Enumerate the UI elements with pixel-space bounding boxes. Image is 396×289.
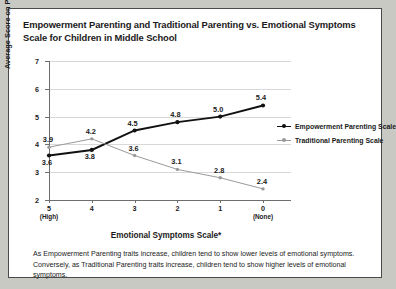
data-point-label: 3.1 <box>165 157 187 166</box>
data-point-label: 3.8 <box>79 152 101 161</box>
series-line <box>49 139 263 189</box>
data-point-label: 3.6 <box>36 158 58 167</box>
y-axis-title: Average Score on Parenting Scales <box>3 0 12 69</box>
data-point-label: 4.2 <box>80 127 102 136</box>
x-tick-label: 5 <box>37 204 61 213</box>
legend-item-empowerment: Empowerment Parenting Scale <box>277 121 389 132</box>
x-tick-label: 2 <box>165 204 189 213</box>
data-point-label: 5.0 <box>207 105 229 114</box>
data-point-marker <box>133 128 137 132</box>
data-point-marker <box>261 187 264 190</box>
x-tick-label: 1 <box>208 204 232 213</box>
data-point-marker <box>261 103 265 107</box>
y-tick-label: 5 <box>25 113 39 122</box>
chart-plot-area: 765432 5(High)43210(None) 3.63.84.54.85.… <box>41 61 291 201</box>
legend-marker-icon <box>277 122 291 131</box>
x-tick-sublabel: (None) <box>246 213 280 220</box>
legend-item-traditional: Traditional Parenting Scale <box>277 135 389 146</box>
legend-marker-icon <box>277 136 291 145</box>
data-point-marker <box>219 176 222 179</box>
data-point-marker <box>90 137 93 140</box>
data-point-marker <box>47 145 50 148</box>
data-point-marker <box>218 115 222 119</box>
y-tick-label: 7 <box>25 57 39 66</box>
data-point-label: 2.8 <box>208 166 230 175</box>
y-tick-label: 6 <box>25 85 39 94</box>
data-point-marker <box>175 120 179 124</box>
x-tick-sublabel: (High) <box>32 213 66 220</box>
data-point-label: 5.4 <box>250 93 272 102</box>
x-axis-title: Emotional Symptoms Scale* <box>41 231 291 240</box>
data-point-label: 4.5 <box>122 119 144 128</box>
chart-legend: Empowerment Parenting Scale Traditional … <box>277 121 389 149</box>
figure-panel: Empowerment Parenting and Traditional Pa… <box>8 8 382 278</box>
x-tick-label: 3 <box>123 204 147 213</box>
data-point-label: 2.4 <box>251 177 273 186</box>
x-tick-label: 0 <box>251 204 275 213</box>
y-tick-label: 3 <box>25 168 39 177</box>
data-point-marker <box>133 154 136 157</box>
x-tick-label: 4 <box>80 204 104 213</box>
data-point-label: 4.8 <box>164 110 186 119</box>
footnote-text: As Empowerment Parenting traits increase… <box>33 249 363 281</box>
data-point-label: 3.9 <box>37 135 59 144</box>
page-title: Empowerment Parenting and Traditional Pa… <box>23 19 371 44</box>
legend-label: Empowerment Parenting Scale <box>295 123 396 130</box>
legend-label: Traditional Parenting Scale <box>295 137 383 144</box>
data-point-label: 3.6 <box>123 144 145 153</box>
data-point-marker <box>176 168 179 171</box>
